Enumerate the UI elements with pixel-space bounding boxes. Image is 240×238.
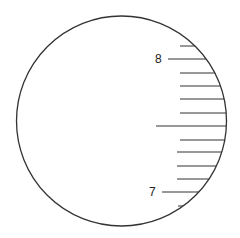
scale-label: 7 [149,186,156,198]
scale-diagram [0,0,240,238]
scale-ticks [156,46,240,206]
scale-label: 8 [155,53,162,65]
view-circle [17,16,227,226]
